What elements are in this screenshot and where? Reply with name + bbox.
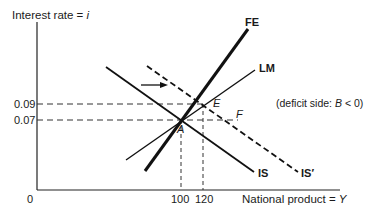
point-e-label: E xyxy=(213,97,221,109)
x-tick-100: 100 xyxy=(171,193,189,205)
x-axis-label: National product = Y xyxy=(242,193,348,205)
y-tick-0.07: 0.07 xyxy=(14,114,35,126)
is-prime-label: IS′ xyxy=(301,167,314,179)
x-tick-120: 120 xyxy=(195,193,213,205)
guide-lines xyxy=(37,104,238,190)
is-prime-curve xyxy=(147,66,298,172)
lm-label: LM xyxy=(259,62,275,74)
fe-label: FE xyxy=(245,16,259,28)
y-tick-0.09: 0.09 xyxy=(14,98,35,110)
point-a-label: A xyxy=(176,123,184,135)
origin-label: 0 xyxy=(27,193,33,205)
deficit-side-annotation: (deficit side: B < 0) xyxy=(276,97,363,109)
shift-arrow-icon xyxy=(141,82,168,88)
y-axis-label: Interest rate = i xyxy=(12,9,89,21)
fe-curve xyxy=(145,29,248,171)
is-lm-fe-diagram: Interest rate = i 0.09 0.07 0 100 120 Na… xyxy=(0,0,377,218)
point-f-label: F xyxy=(236,108,244,120)
is-label: IS xyxy=(258,167,268,179)
